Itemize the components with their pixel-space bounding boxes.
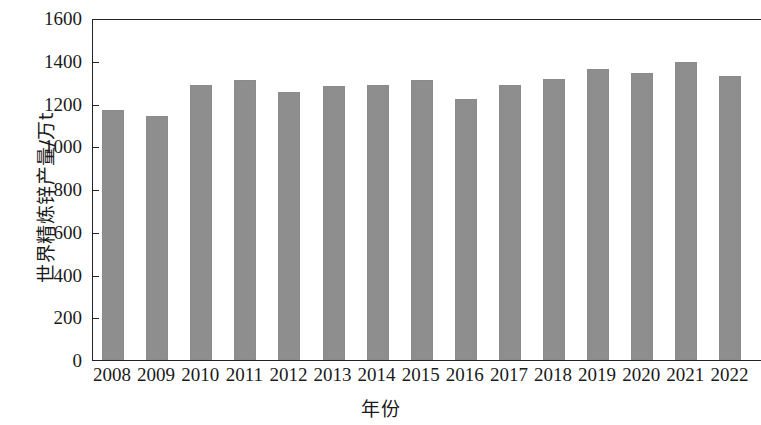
bars-layer: [93, 20, 761, 360]
bar: [719, 76, 741, 360]
bar-chart: 世界精炼锌产量/万t 02004006008001000120014001600…: [0, 0, 761, 425]
bar: [278, 92, 300, 360]
y-tick-label: 800: [30, 180, 82, 199]
bar: [631, 73, 653, 360]
x-tick-label: 2022: [703, 364, 755, 386]
bar: [146, 116, 168, 360]
y-tick-label: 1000: [30, 137, 82, 156]
bar: [367, 85, 389, 360]
bar: [499, 85, 521, 360]
x-axis-title: 年份: [0, 394, 761, 421]
bar: [587, 69, 609, 360]
x-axis-tick-labels: 2008200920102011201220132014201520162017…: [92, 364, 761, 392]
bar: [543, 79, 565, 360]
bar: [190, 85, 212, 360]
y-axis-tick-labels: 02004006008001000120014001600: [30, 0, 82, 425]
bar: [411, 80, 433, 360]
y-tick-label: 200: [30, 308, 82, 327]
bar: [323, 86, 345, 360]
bar: [675, 62, 697, 360]
bar: [234, 80, 256, 360]
y-tick-label: 1400: [30, 52, 82, 71]
y-tick-label: 0: [30, 351, 82, 370]
y-tick-label: 1200: [30, 95, 82, 114]
y-tick-label: 1600: [30, 9, 82, 28]
bar: [455, 99, 477, 360]
y-tick-label: 600: [30, 223, 82, 242]
plot-area: [92, 19, 761, 361]
y-tick-label: 400: [30, 266, 82, 285]
bar: [102, 110, 124, 360]
